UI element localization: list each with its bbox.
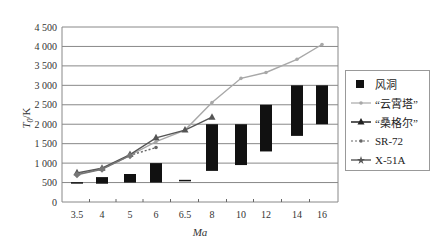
series-line — [77, 45, 322, 175]
y-tick-label: 2 500 — [35, 99, 58, 110]
y-tick-label: 1 500 — [35, 138, 58, 149]
legend-item-wind-tunnel: 风洞 — [350, 74, 425, 93]
y-axis-ticks: 05001 0001 5002 0002 5003 0003 5004 0004… — [35, 22, 58, 208]
square-icon — [350, 79, 372, 89]
line-dot-icon — [350, 98, 372, 108]
x-tick-label: 14 — [292, 209, 302, 220]
wind-tunnel-bar — [316, 85, 328, 124]
x-tick-label: 12 — [261, 209, 271, 220]
x-tick-label: 6.5 — [179, 209, 192, 220]
y-tick-label: 3 500 — [35, 60, 58, 71]
wind-tunnel-bar — [150, 163, 162, 182]
legend-item-x51a: X-51A — [350, 150, 425, 169]
line-star-icon — [350, 155, 372, 165]
dotted-dot-icon — [350, 136, 372, 146]
legend-item-sr72: SR-72 — [350, 131, 425, 150]
legend-label: SR-72 — [375, 135, 403, 147]
y-tick-label: 4 500 — [35, 22, 58, 33]
y-tick-label: 0 — [52, 197, 57, 208]
line-triangle-icon — [350, 117, 372, 127]
x-tick-label: 10 — [236, 209, 246, 220]
wind-tunnel-bar — [124, 174, 136, 183]
x-tick-label: 6 — [154, 209, 159, 220]
legend: 风洞 “云霄塔” “桑格尔” SR-72 X-51A — [345, 70, 430, 171]
x-tick-label: 8 — [210, 209, 215, 220]
wind-tunnel-bar — [96, 177, 108, 184]
x-tick-label: 5 — [128, 209, 133, 220]
x-tick-label: 4 — [100, 209, 105, 220]
y-tick-label: 4 000 — [35, 41, 58, 52]
wind-tunnel-bar — [71, 182, 83, 184]
y-tick-label: 3 000 — [35, 80, 58, 91]
y-tick-label: 500 — [42, 177, 57, 188]
wind-tunnel-bar — [235, 124, 247, 165]
legend-label: “云霄塔” — [375, 95, 418, 111]
y-tick-label: 1 000 — [35, 158, 58, 169]
wind-tunnel-bars — [71, 85, 328, 183]
series-line — [77, 117, 212, 173]
legend-label: “桑格尔” — [375, 114, 418, 130]
y-tick-label: 2 000 — [35, 119, 58, 130]
x-tick-label: 3.5 — [71, 209, 84, 220]
wind-tunnel-bar — [291, 85, 303, 136]
legend-label: X-51A — [375, 154, 406, 166]
wind-tunnel-bar — [206, 124, 218, 171]
series-lines — [73, 43, 323, 179]
legend-item-yunxiaota: “云霄塔” — [350, 93, 425, 112]
wind-tunnel-bar — [179, 180, 191, 182]
svg-text:T0/K: T0/K — [20, 107, 35, 128]
wind-tunnel-bar — [260, 105, 272, 152]
x-tick-label: 16 — [317, 209, 327, 220]
legend-label: 风洞 — [375, 76, 397, 92]
legend-item-sanger: “桑格尔” — [350, 112, 425, 131]
x-axis-label: Ma — [192, 226, 208, 238]
y-axis-label: T0/K — [20, 107, 35, 128]
